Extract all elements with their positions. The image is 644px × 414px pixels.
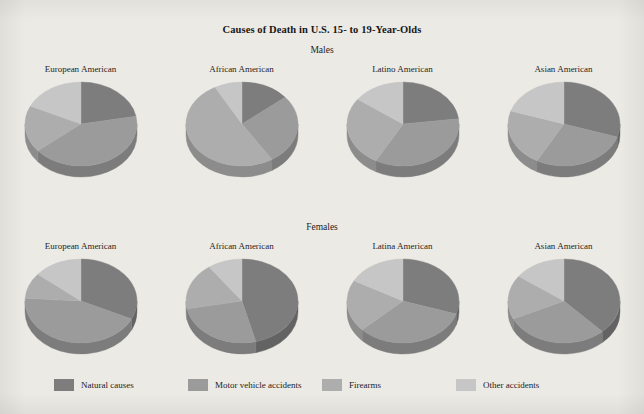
pie-graphic [503, 78, 625, 182]
pie-chart [181, 78, 303, 182]
pie-graphic [503, 255, 625, 359]
chart-legend: Natural causesMotor vehicle accidentsFir… [0, 379, 644, 391]
pie-row-females: European AmericanAfrican AmericanLatina … [0, 241, 644, 381]
legend-label: Firearms [349, 380, 381, 390]
pie-chart-cell: African American [161, 241, 322, 381]
pie-chart [181, 255, 303, 359]
pie-chart-cell: Asian American [483, 241, 644, 381]
pie-graphic [181, 255, 303, 359]
pie-chart [20, 78, 142, 182]
pie-graphic [20, 255, 142, 359]
pie-chart-label: African American [209, 64, 274, 74]
pie-chart-label: European American [45, 64, 117, 74]
legend-item: Motor vehicle accidents [188, 379, 322, 391]
legend-item: Firearms [322, 379, 456, 391]
pie-chart-label: African American [209, 241, 274, 251]
legend-swatch-firearms [322, 379, 342, 391]
legend-label: Motor vehicle accidents [215, 380, 301, 390]
pie-chart-cell: Latina American [322, 241, 483, 381]
pie-graphic [342, 255, 464, 359]
pie-chart [342, 78, 464, 182]
panel-heading-males: Males [0, 45, 644, 55]
pie-chart [503, 78, 625, 182]
pie-chart-cell: Asian American [483, 64, 644, 204]
pie-chart-cell: European American [0, 64, 161, 204]
pie-chart-cell: Latino American [322, 64, 483, 204]
legend-item: Other accidents [456, 379, 590, 391]
pie-row-males: European AmericanAfrican AmericanLatino … [0, 64, 644, 204]
pie-graphic [20, 78, 142, 182]
pie-slice [403, 82, 459, 124]
pie-chart-cell: European American [0, 241, 161, 381]
pie-graphic [342, 78, 464, 182]
panel-heading-females: Females [0, 222, 644, 232]
figure-canvas: Causes of Death in U.S. 15- to 19-Year-O… [0, 0, 644, 414]
pie-chart [342, 255, 464, 359]
pie-chart-label: Latino American [372, 64, 433, 74]
legend-label: Natural causes [81, 380, 134, 390]
page-title: Causes of Death in U.S. 15- to 19-Year-O… [0, 24, 644, 35]
pie-chart-label: Asian American [534, 241, 592, 251]
pie-chart-cell: African American [161, 64, 322, 204]
pie-chart [503, 255, 625, 359]
pie-chart [20, 255, 142, 359]
legend-item: Natural causes [54, 379, 188, 391]
legend-label: Other accidents [483, 380, 539, 390]
pie-chart-label: Latina American [372, 241, 432, 251]
legend-swatch-motor-vehicle-accidents [188, 379, 208, 391]
legend-swatch-natural-causes [54, 379, 74, 391]
legend-swatch-other-accidents [456, 379, 476, 391]
pie-chart-label: Asian American [534, 64, 592, 74]
pie-graphic [181, 78, 303, 182]
pie-chart-label: European American [45, 241, 117, 251]
